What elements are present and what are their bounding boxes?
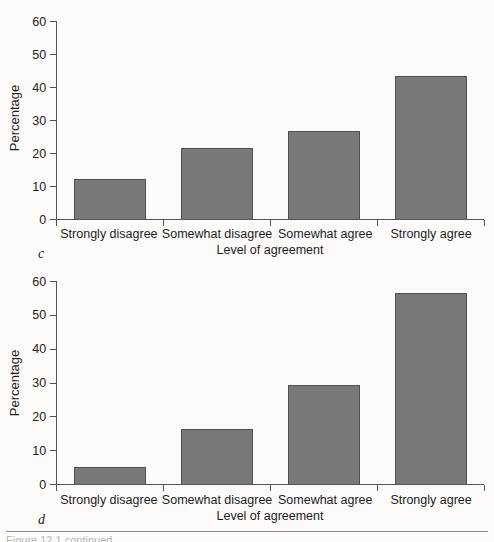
x-tick	[484, 485, 485, 491]
figure-page: Percentage 0102030405060 Strongly disagr…	[0, 0, 494, 542]
y-tick-label-50: 50	[32, 308, 46, 322]
bar	[288, 131, 360, 219]
y-tick-label-10: 10	[32, 444, 46, 458]
y-tick-label-40: 40	[32, 342, 46, 356]
category-label: Strongly disagree	[56, 227, 162, 241]
y-axis-title-d: Percentage	[7, 350, 22, 417]
category-label: Somewhat disagree	[162, 493, 272, 507]
y-tick-label-60: 60	[32, 14, 46, 28]
x-tick	[377, 485, 378, 491]
y-tick-label-30: 30	[32, 113, 46, 127]
caption-divider	[6, 531, 488, 532]
x-tick	[56, 485, 57, 491]
bar	[395, 76, 467, 219]
x-tick	[484, 220, 485, 226]
x-axis-title-d: Level of agreement	[56, 509, 484, 523]
y-tick-label-20: 20	[32, 146, 46, 160]
category-label: Strongly disagree	[56, 493, 162, 507]
bar	[288, 385, 360, 484]
category-label: Strongly agree	[378, 227, 484, 241]
bar	[74, 467, 146, 484]
panel-letter-c: c	[38, 246, 44, 262]
x-tick	[163, 485, 164, 491]
x-tick	[270, 220, 271, 226]
x-axis-title-c: Level of agreement	[56, 243, 484, 257]
y-tick-label-40: 40	[32, 80, 46, 94]
bar-series-c	[56, 21, 484, 219]
y-tick-label-50: 50	[32, 47, 46, 61]
bar-slot	[270, 281, 377, 484]
bar-slot	[56, 281, 163, 484]
bar	[181, 148, 253, 219]
chart-panel-d: Percentage 0102030405060 Strongly disagr…	[0, 271, 494, 542]
bar	[395, 293, 467, 484]
figure-caption: Figure 12.1 continued	[6, 534, 112, 542]
bar	[181, 429, 253, 484]
bar-series-d	[56, 281, 484, 484]
panel-letter-d: d	[38, 512, 45, 528]
bar-slot	[270, 21, 377, 219]
y-tick-label-0: 0	[39, 477, 46, 491]
category-label: Strongly agree	[378, 493, 484, 507]
bar-slot	[377, 21, 484, 219]
bar-slot	[377, 281, 484, 484]
x-axis-category-labels-c: Strongly disagreeSomewhat disagreeSomewh…	[56, 227, 484, 241]
bar-slot	[56, 21, 163, 219]
x-tick	[163, 220, 164, 226]
y-tick-label-60: 60	[32, 274, 46, 288]
y-tick-label-0: 0	[39, 212, 46, 226]
x-tick	[377, 220, 378, 226]
y-tick-label-30: 30	[32, 376, 46, 390]
bar	[74, 179, 146, 219]
category-label: Somewhat disagree	[162, 227, 272, 241]
x-tick	[56, 220, 57, 226]
x-axis-category-labels-d: Strongly disagreeSomewhat disagreeSomewh…	[56, 493, 484, 507]
x-tick	[270, 485, 271, 491]
y-tick-label-20: 20	[32, 410, 46, 424]
y-axis-title-c: Percentage	[7, 85, 22, 152]
chart-panel-c: Percentage 0102030405060 Strongly disagr…	[0, 0, 494, 271]
category-label: Somewhat agree	[272, 227, 378, 241]
plot-area-d: 0102030405060	[56, 281, 484, 485]
plot-area-c: 0102030405060	[56, 21, 484, 220]
category-label: Somewhat agree	[272, 493, 378, 507]
bar-slot	[163, 21, 270, 219]
y-tick-label-10: 10	[32, 179, 46, 193]
bar-slot	[163, 281, 270, 484]
